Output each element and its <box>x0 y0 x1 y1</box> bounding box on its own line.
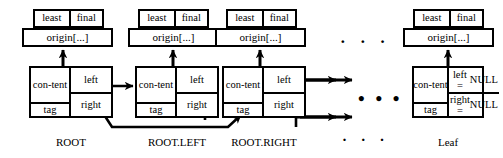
leaf-header-least: least <box>415 11 449 26</box>
leaf-right-line2: NULL <box>470 99 498 110</box>
leaf-header-final: final <box>449 11 483 26</box>
root-right-right-col: left right <box>264 68 304 116</box>
root-left-header-final: final <box>174 11 208 26</box>
root-left-field-right: right <box>177 92 217 116</box>
caption-leaf: Leaf <box>412 137 484 148</box>
root-left-struct: con- tent tag left right <box>135 66 219 118</box>
root-struct: con- tent tag left right <box>29 66 113 118</box>
origin-pointer-arrows <box>63 50 448 66</box>
root-left-field-content: con- tent <box>137 68 175 102</box>
ellipsis-bottom: · · · <box>342 133 390 148</box>
root-left-header-least: least <box>140 11 174 26</box>
root-content-line1: con- <box>33 79 52 90</box>
leaf-content-line2: tent <box>432 79 448 90</box>
root-left-col: con- tent tag <box>31 68 71 116</box>
caption-root: ROOT <box>29 137 113 148</box>
root-left-header: least final <box>138 9 209 28</box>
root-left-content-line1: con- <box>139 79 158 90</box>
root-field-tag: tag <box>31 102 69 116</box>
root-left-origin-bar: origin[...] <box>128 28 219 47</box>
root-right-field-content: con- tent <box>224 68 262 102</box>
root-field-content: con- tent <box>31 68 69 102</box>
root-right-struct: con- tent tag left right <box>222 66 306 118</box>
root-right-col: left right <box>71 68 111 116</box>
leaf-left-line2: NULL <box>470 74 498 85</box>
root-left-field-left: left <box>177 68 217 92</box>
root-right-field-tag: tag <box>224 102 262 116</box>
binary-tree-node-diagram: least final origin[...] con- tent tag le… <box>0 0 503 158</box>
leaf-left-line1: left = <box>450 69 470 91</box>
caption-root-right: ROOT.RIGHT <box>208 137 320 148</box>
root-right-header-final: final <box>262 11 296 26</box>
root-left-content-line2: tent <box>157 79 173 90</box>
root-right-field-right: right <box>264 92 304 116</box>
leaf-struct: con- tent tag left = NULL right = NULL <box>412 66 484 118</box>
root-left-field-tag: tag <box>137 102 175 116</box>
leaf-left-col: con- tent tag <box>414 68 449 116</box>
leaf-content-line1: con- <box>413 79 432 90</box>
leaf-right-line1: right = <box>450 94 470 116</box>
root-field-left: left <box>71 68 111 92</box>
leaf-field-content: con- tent <box>414 68 447 102</box>
root-header-final: final <box>69 11 103 26</box>
root-right-origin-bar: origin[...] <box>215 28 306 47</box>
root-left-left-col: con- tent tag <box>137 68 177 116</box>
root-header-least: least <box>35 11 69 26</box>
ellipsis-top: · · · <box>340 33 391 50</box>
ellipsis-middle: • • • <box>358 89 402 108</box>
leaf-header: least final <box>413 9 484 28</box>
root-right-header-least: least <box>228 11 262 26</box>
root-content-line2: tent <box>51 79 67 90</box>
root-field-right: right <box>71 92 111 116</box>
leaf-field-right-null: right = NULL <box>449 92 499 116</box>
root-right-content-line2: tent <box>244 79 260 90</box>
leaf-field-left-null: left = NULL <box>449 68 499 92</box>
root-left-right-col: left right <box>177 68 217 116</box>
root-right-header: least final <box>226 9 297 28</box>
root-right-content-line1: con- <box>226 79 245 90</box>
root-right-left-col: con- tent tag <box>224 68 264 116</box>
root-header: least final <box>33 9 104 28</box>
leaf-origin-bar: origin[...] <box>403 28 494 47</box>
root-right-field-left: left <box>264 68 304 92</box>
leaf-right-col: left = NULL right = NULL <box>449 68 499 116</box>
leaf-field-tag: tag <box>414 102 447 116</box>
root-origin-bar: origin[...] <box>22 28 113 47</box>
